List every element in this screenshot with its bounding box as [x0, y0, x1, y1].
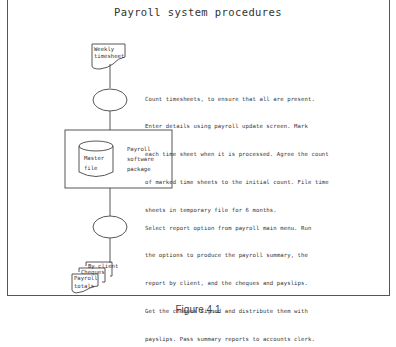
step-1-line: Enter details using payroll update scree… — [145, 122, 329, 131]
step-2-description: Select report option from payroll main m… — [145, 205, 315, 347]
step-1-line: each time sheet when it is processed. Ag… — [145, 150, 329, 159]
master-file-label-2: file — [84, 164, 97, 173]
process-ellipse-1 — [93, 89, 127, 111]
master-file-label-1: Master — [84, 154, 104, 163]
step-1-description: Count timesheets, to ensure that all are… — [145, 76, 329, 225]
step-1-line: Count timesheets, to ensure that all are… — [145, 95, 329, 104]
payroll-totals-label-2: totals — [74, 282, 94, 291]
process-ellipse-2 — [93, 216, 127, 238]
figure-caption: Figure 4.1 — [0, 304, 396, 315]
step-2-line: report by client, and the cheques and pa… — [145, 279, 315, 288]
step-2-line: payslips. Pass summary reports to accoun… — [145, 335, 315, 344]
step-2-line: the options to produce the payroll summa… — [145, 251, 315, 260]
weekly-timesheet-label-2: timesheet — [94, 52, 124, 61]
step-2-line: Select report option from payroll main m… — [145, 224, 315, 233]
step-1-line: of marked time sheets to the initial cou… — [145, 178, 329, 187]
